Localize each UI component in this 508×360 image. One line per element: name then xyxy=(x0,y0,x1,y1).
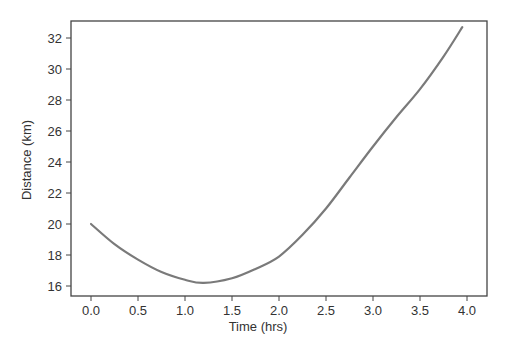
y-tick-label: 20 xyxy=(48,217,62,232)
x-tick-label: 0.5 xyxy=(129,303,147,318)
y-tick-label: 22 xyxy=(48,186,62,201)
x-tick-label: 1.5 xyxy=(223,303,241,318)
y-tick-label: 26 xyxy=(48,124,62,139)
x-tick-label: 2.5 xyxy=(317,303,335,318)
y-tick-label: 18 xyxy=(48,248,62,263)
x-tick-label: 2.0 xyxy=(270,303,288,318)
x-axis-label: Time (hrs) xyxy=(229,319,288,334)
plot-area xyxy=(71,21,487,296)
y-axis: 161820222426283032 xyxy=(48,31,71,294)
line-chart: 0.00.51.01.52.02.53.03.54.0 161820222426… xyxy=(0,0,508,360)
y-tick-label: 16 xyxy=(48,279,62,294)
plot-frame xyxy=(71,21,487,296)
y-axis-label: Distance (km) xyxy=(19,120,34,200)
x-tick-label: 0.0 xyxy=(82,303,100,318)
x-tick-label: 3.5 xyxy=(411,303,429,318)
x-tick-label: 3.0 xyxy=(364,303,382,318)
y-tick-label: 32 xyxy=(48,31,62,46)
x-axis: 0.00.51.01.52.02.53.03.54.0 xyxy=(82,296,476,318)
y-tick-label: 24 xyxy=(48,155,62,170)
y-tick-label: 30 xyxy=(48,62,62,77)
x-tick-label: 4.0 xyxy=(458,303,476,318)
x-tick-label: 1.0 xyxy=(176,303,194,318)
y-tick-label: 28 xyxy=(48,93,62,108)
